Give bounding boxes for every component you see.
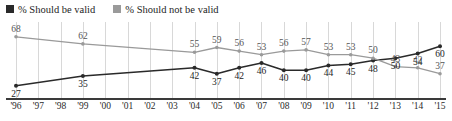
legend-label-should-not-be-valid: % Should not be valid — [125, 4, 218, 15]
chart-svg: 2735423742464040444548505460686255595653… — [0, 22, 452, 100]
x-tick-97: '97 — [33, 101, 44, 111]
x-axis-tick-labels: '96'97'98'99'00'01'02'03'04'05'06'07'08'… — [0, 101, 452, 121]
data-label: 42 — [413, 55, 423, 65]
data-label: 27 — [11, 89, 21, 99]
data-point — [371, 56, 375, 60]
data-point — [215, 72, 219, 76]
data-point — [304, 48, 308, 52]
data-point — [237, 66, 241, 70]
x-tick-10: '10 — [323, 101, 334, 111]
x-tick-96: '96 — [10, 101, 21, 111]
data-point — [14, 35, 18, 39]
data-point — [81, 42, 85, 46]
data-point — [438, 44, 442, 48]
data-label: 35 — [78, 79, 88, 89]
x-tick-98: '98 — [55, 101, 66, 111]
data-point — [349, 62, 353, 66]
data-label: 48 — [368, 64, 378, 74]
data-point — [282, 49, 286, 53]
legend-label-should-be-valid: % Should be valid — [18, 4, 95, 15]
legend-item-should-not-be-valid: % Should not be valid — [113, 4, 218, 15]
data-label: 44 — [324, 68, 334, 78]
chart-figure: % Should be valid % Should not be valid … — [0, 0, 452, 121]
x-tick-08: '08 — [278, 101, 289, 111]
x-tick-11: '11 — [345, 101, 356, 111]
x-tick-15: '15 — [434, 101, 445, 111]
data-label: 53 — [257, 42, 267, 52]
data-point — [237, 49, 241, 53]
data-label: 37 — [212, 77, 222, 87]
chart-plot-area: 2735423742464040444548505460686255595653… — [0, 22, 452, 100]
data-label: 62 — [78, 31, 88, 41]
data-label: 43 — [391, 54, 401, 64]
legend-swatch-gray — [113, 5, 121, 13]
data-label: 50 — [368, 45, 378, 55]
x-tick-12: '12 — [367, 101, 378, 111]
x-tick-14: '14 — [412, 101, 423, 111]
data-label: 53 — [324, 42, 334, 52]
x-tick-03: '03 — [167, 101, 178, 111]
data-label: 42 — [190, 71, 200, 81]
data-point — [193, 66, 197, 70]
data-label: 59 — [212, 35, 222, 45]
x-tick-09: '09 — [300, 101, 311, 111]
data-point — [81, 74, 85, 78]
data-point — [260, 61, 264, 65]
data-label: 56 — [279, 38, 289, 48]
data-point — [14, 84, 18, 88]
data-point — [349, 53, 353, 57]
x-tick-06: '06 — [234, 101, 245, 111]
x-tick-13: '13 — [390, 101, 401, 111]
x-tick-99: '99 — [77, 101, 88, 111]
legend-swatch-black — [6, 5, 14, 13]
data-point — [193, 51, 197, 55]
x-tick-07: '07 — [256, 101, 267, 111]
data-point — [438, 72, 442, 76]
data-point — [215, 46, 219, 50]
data-label: 56 — [234, 38, 244, 48]
data-point — [327, 53, 331, 57]
data-label: 37 — [435, 61, 445, 71]
data-label: 40 — [301, 73, 311, 83]
data-point — [282, 68, 286, 72]
x-tick-02: '02 — [144, 101, 155, 111]
data-point — [260, 53, 264, 57]
data-label: 46 — [257, 66, 267, 76]
data-label: 60 — [435, 49, 445, 59]
data-label: 53 — [346, 42, 356, 52]
data-label: 68 — [11, 24, 21, 34]
data-label: 57 — [301, 37, 311, 47]
legend-item-should-be-valid: % Should be valid — [6, 4, 95, 15]
data-label: 42 — [234, 71, 244, 81]
data-label: 45 — [346, 67, 356, 77]
data-label: 40 — [279, 73, 289, 83]
data-label: 55 — [190, 39, 200, 49]
data-point — [416, 66, 420, 70]
x-tick-05: '05 — [211, 101, 222, 111]
chart-legend: % Should be valid % Should not be valid — [6, 2, 219, 16]
x-tick-00: '00 — [100, 101, 111, 111]
x-tick-01: '01 — [122, 101, 133, 111]
data-point — [326, 63, 330, 67]
x-tick-04: '04 — [189, 101, 200, 111]
data-point — [304, 68, 308, 72]
